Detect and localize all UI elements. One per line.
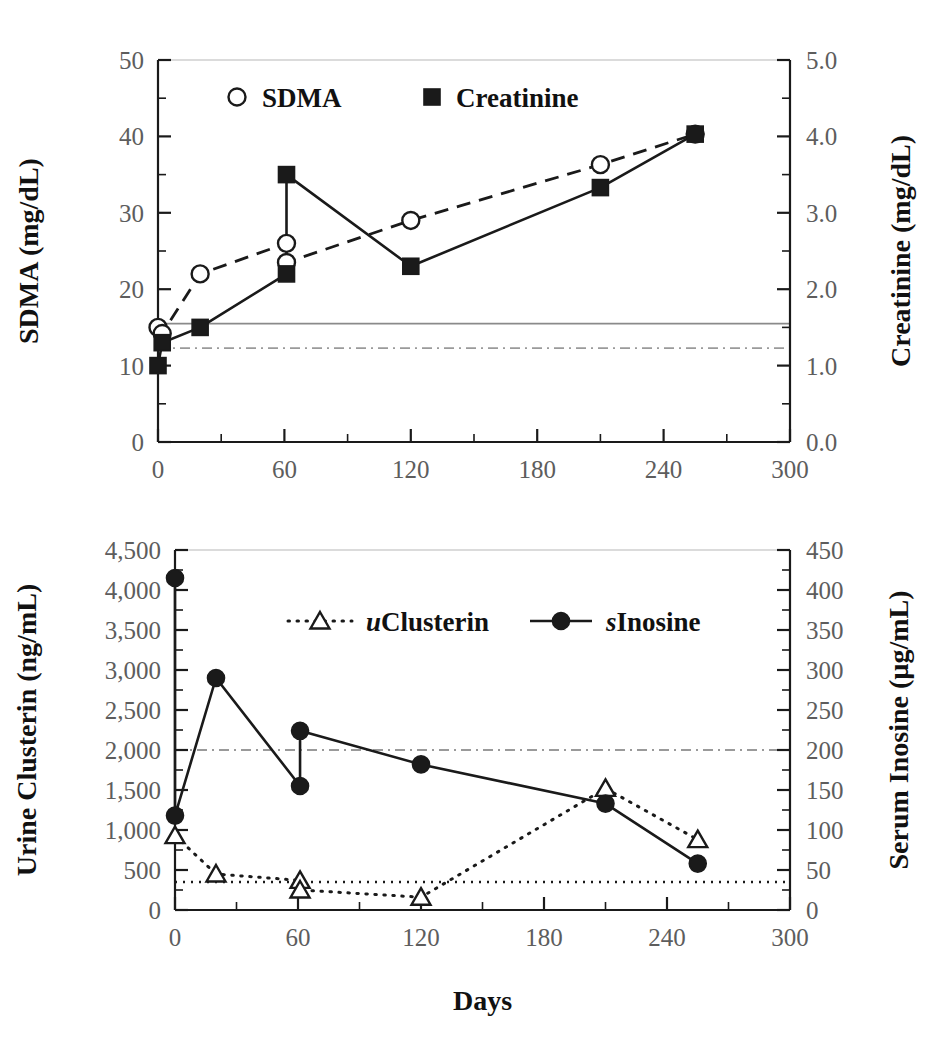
datapoint-sInosine [292, 778, 309, 795]
x-ticklabel: 300 [771, 924, 809, 951]
x-ticklabel: 180 [518, 456, 556, 483]
y-ticklabel-left: 4,500 [105, 537, 161, 564]
y-ticklabel-right: 350 [806, 617, 844, 644]
y-ticklabel-left: 1,500 [105, 777, 161, 804]
y-ticklabel-left: 3,500 [105, 617, 161, 644]
y-ticklabel-left: 40 [119, 123, 144, 150]
datapoint-Creatinine [592, 180, 608, 196]
x-ticklabel: 120 [402, 924, 440, 951]
x-ticklabel: 0 [152, 456, 165, 483]
series-markers-Creatinine [150, 126, 703, 373]
datapoint-Creatinine [150, 358, 166, 374]
datapoint-sInosine [597, 795, 614, 812]
y-axis-title-right: Serum Inosine (µg/mL) [883, 590, 914, 869]
chart-svg-top: 010203040500.01.02.03.04.05.006012018024… [0, 0, 936, 500]
series-line-uClusterin [175, 788, 698, 897]
y-ticklabel-right: 300 [806, 657, 844, 684]
chart-panel-top: 010203040500.01.02.03.04.05.006012018024… [0, 0, 936, 500]
datapoint-sInosine [208, 670, 225, 687]
datapoint-SDMA [192, 265, 209, 282]
series-line-Creatinine [158, 134, 695, 365]
datapoint-sInosine [413, 756, 430, 773]
y-ticklabel-right: 4.0 [806, 123, 837, 150]
y-axis-title-right: Creatinine (mg/dL) [885, 135, 916, 367]
x-ticklabel: 240 [645, 456, 683, 483]
y-ticklabel-left: 2,000 [105, 737, 161, 764]
datapoint-uClusterin [688, 831, 707, 848]
x-ticklabel: 180 [525, 924, 563, 951]
datapoint-SDMA [278, 235, 295, 252]
y-ticklabel-left: 10 [119, 353, 144, 380]
y-ticklabel-right: 400 [806, 577, 844, 604]
datapoint-sInosine [167, 570, 184, 587]
datapoint-Creatinine [192, 319, 208, 335]
figure-root: 010203040500.01.02.03.04.05.006012018024… [0, 0, 936, 1041]
y-ticklabel-right: 150 [806, 777, 844, 804]
datapoint-SDMA [402, 212, 419, 229]
y-ticklabel-right: 5.0 [806, 47, 837, 74]
datapoint-Creatinine [279, 167, 295, 183]
y-ticklabel-right: 450 [806, 537, 844, 564]
datapoint-SDMA [592, 156, 609, 173]
x-ticklabel: 60 [272, 456, 297, 483]
y-ticklabel-right: 0 [806, 897, 819, 924]
y-ticklabel-left: 0 [132, 429, 145, 456]
datapoint-sInosine [689, 855, 706, 872]
x-axis-title: Days [453, 985, 512, 1016]
legend-marker-sdma [229, 89, 246, 106]
y-ticklabel-right: 50 [806, 857, 831, 884]
datapoint-Creatinine [154, 335, 170, 351]
datapoint-sInosine [292, 722, 309, 739]
legend-bottom: uClusterinsInosine [288, 607, 701, 637]
datapoint-uClusterin [596, 779, 615, 796]
y-ticklabel-right: 3.0 [806, 200, 837, 227]
y-ticklabel-right: 200 [806, 737, 844, 764]
y-ticklabel-left: 500 [124, 857, 162, 884]
x-ticklabel: 240 [648, 924, 686, 951]
chart-svg-bottom: 05001,0001,5002,0002,5003,0003,5004,0004… [0, 500, 936, 1041]
y-ticklabel-right: 0.0 [806, 429, 837, 456]
y-ticklabel-right: 250 [806, 697, 844, 724]
legend-marker-creatinine [424, 89, 440, 105]
legend-label-sinosine: sInosine [605, 607, 701, 637]
y-ticklabel-left: 0 [149, 897, 162, 924]
y-axis-title-left: Urine Clusterin (ng/mL) [11, 584, 42, 876]
x-ticklabel: 300 [771, 456, 809, 483]
y-ticklabel-right: 100 [806, 817, 844, 844]
datapoint-uClusterin [412, 888, 431, 905]
legend-label-creatinine: Creatinine [456, 83, 579, 113]
legend-marker-sinosine [553, 613, 570, 630]
datapoint-sInosine [167, 807, 184, 824]
x-ticklabel: 120 [392, 456, 430, 483]
y-ticklabel-left: 50 [119, 47, 144, 74]
datapoint-Creatinine [279, 266, 295, 282]
legend-label-sdma: SDMA [262, 83, 342, 113]
x-ticklabel: 0 [169, 924, 182, 951]
legend-top: SDMACreatinine [229, 83, 579, 113]
x-ticklabel: 60 [286, 924, 311, 951]
y-ticklabel-left: 30 [119, 200, 144, 227]
legend-label-uclusterin: uClusterin [366, 607, 489, 637]
y-ticklabel-left: 3,000 [105, 657, 161, 684]
y-ticklabel-left: 2,500 [105, 697, 161, 724]
y-ticklabel-right: 2.0 [806, 276, 837, 303]
chart-panel-bottom: 05001,0001,5002,0002,5003,0003,5004,0004… [0, 500, 936, 1041]
y-axis-title-left: SDMA (mg/dL) [13, 158, 44, 344]
series-markers-uClusterin [166, 779, 708, 904]
datapoint-Creatinine [687, 126, 703, 142]
datapoint-Creatinine [403, 258, 419, 274]
y-ticklabel-left: 20 [119, 276, 144, 303]
y-ticklabel-right: 1.0 [806, 353, 837, 380]
y-ticklabel-left: 4,000 [105, 577, 161, 604]
y-ticklabel-left: 1,000 [105, 817, 161, 844]
